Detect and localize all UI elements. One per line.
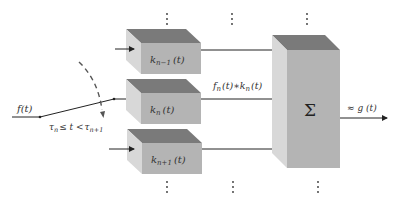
convolution-label: fn(t)∗kn(t)	[212, 80, 263, 93]
switch-rotation-arrowhead	[100, 111, 105, 118]
input-signal: f(t)	[12, 103, 41, 118]
input-label: f(t)	[16, 103, 33, 114]
summation-block: Σ	[272, 35, 340, 168]
switch-condition: τn≤ t <τn+1	[49, 122, 103, 134]
switch: τn≤ t <τn+1	[40, 62, 134, 134]
filter-box-k-n-minus-1: kn−1(t)	[126, 29, 201, 74]
summation-symbol: Σ	[304, 100, 316, 120]
output-signal: ≈ g (t)	[340, 103, 387, 118]
output-label: ≈ g (t)	[347, 103, 377, 113]
filter-box-k-n-plus-1: kn+1(t)	[127, 129, 202, 174]
filter-output-arrows	[201, 50, 279, 149]
signal-processing-diagram: f(t) τn≤ t <τn+1 kn−1(t) kn(t)	[0, 0, 401, 204]
filter-box-k-n: kn(t)	[126, 79, 201, 124]
